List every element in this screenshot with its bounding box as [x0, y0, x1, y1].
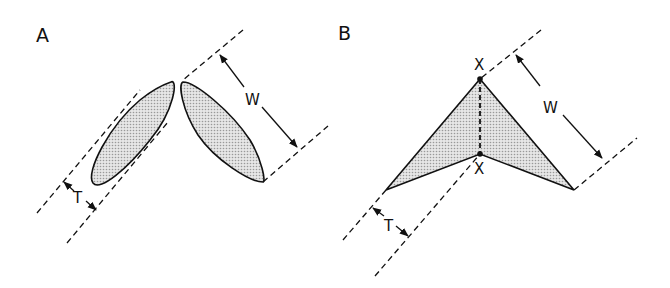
diagram-canvas: A W T B X: [0, 0, 670, 288]
bottom-point-marker: [477, 151, 483, 157]
t-label-a: T: [72, 189, 83, 207]
panel-b-label: B: [338, 22, 351, 44]
top-point-marker: [477, 76, 483, 82]
w-label-a: W: [245, 91, 260, 109]
t-arrow-b-left: [373, 208, 384, 216]
w-arrow-b-bottom: [563, 115, 602, 158]
guide-lines-a: [37, 30, 328, 243]
bottom-point-label: X: [474, 160, 484, 178]
t-label-b: T: [383, 217, 394, 235]
t-arrow-a-right: [86, 201, 96, 210]
panel-a-label: A: [36, 24, 49, 46]
t-arrow-b-right: [396, 226, 408, 236]
panel-b: B X X W T: [338, 22, 637, 276]
w-arrow-b-top: [516, 55, 540, 86]
w-label-b: W: [543, 99, 558, 117]
w-arrow-a-bottom: [262, 107, 297, 147]
w-arrow-a-top: [220, 55, 244, 87]
panel-a: A W T: [36, 24, 328, 243]
top-point-label: X: [474, 56, 484, 74]
